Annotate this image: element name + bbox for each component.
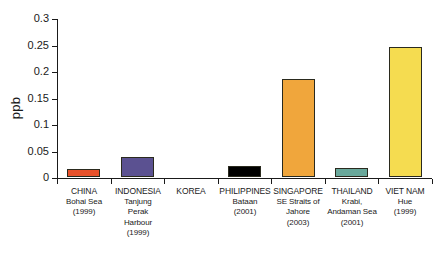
category-sublabel: (1999): [111, 228, 165, 239]
bar-chart-figure: ppb 00.050.10.150.20.250.3 CHINABohai Se…: [0, 0, 437, 255]
category-sublabel: (1999): [57, 207, 111, 218]
category-country-name: INDONESIA: [111, 186, 165, 197]
category-sublabel: Hue: [378, 197, 432, 208]
x-axis-category-label: PHILIPPINESBataan(2001): [218, 186, 272, 218]
x-axis-tick: [57, 179, 58, 184]
y-axis-tick: 0.25: [52, 46, 57, 47]
y-axis-tick-label: 0.3: [34, 12, 49, 25]
category-sublabel: Perak: [111, 207, 165, 218]
category-country-name: CHINA: [57, 186, 111, 197]
x-axis-category-label: SINGAPORESE Straits ofJahore(2003): [271, 186, 325, 228]
y-axis-tick-label: 0: [43, 171, 49, 184]
x-axis-category-label: THAILANDKrabi,Andaman Sea(2001): [325, 186, 379, 228]
category-sublabel: (2001): [325, 218, 379, 229]
y-axis-tick-label: 0.05: [28, 145, 49, 158]
bar: [121, 157, 154, 177]
category-sublabel: Bohai Sea: [57, 197, 111, 208]
category-country-name: SINGAPORE: [271, 186, 325, 197]
category-sublabel: Tanjung: [111, 197, 165, 208]
x-axis-line: [57, 178, 432, 179]
x-axis-tick: [271, 179, 272, 184]
category-sublabel: (2003): [271, 218, 325, 229]
x-axis-category-label: VIET NAMHue(1999): [378, 186, 432, 218]
bar: [228, 166, 261, 177]
category-sublabel: Jahore: [271, 207, 325, 218]
x-axis-tick: [325, 179, 326, 184]
x-axis-tick: [111, 179, 112, 184]
category-sublabel: (2001): [218, 207, 272, 218]
y-axis-tick-label: 0.15: [28, 92, 49, 105]
x-axis-category-label: KOREA: [164, 186, 218, 197]
category-country-name: KOREA: [164, 186, 218, 197]
y-axis-line: [57, 19, 58, 179]
category-sublabel: Krabi,: [325, 197, 379, 208]
y-axis-tick-label: 0.1: [34, 118, 49, 131]
category-sublabel: Bataan: [218, 197, 272, 208]
category-country-name: THAILAND: [325, 186, 379, 197]
category-sublabel: (1999): [378, 207, 432, 218]
category-sublabel: Andaman Sea: [325, 207, 379, 218]
y-axis-tick: 0.2: [52, 72, 57, 73]
x-axis-tick: [432, 179, 433, 184]
x-axis-tick: [378, 179, 379, 184]
x-axis-tick: [164, 179, 165, 184]
bar: [67, 169, 100, 177]
category-country-name: PHILIPPINES: [218, 186, 272, 197]
y-axis-tick: 0.3: [52, 19, 57, 20]
y-axis-title: ppb: [8, 78, 23, 138]
y-axis-tick: 0.15: [52, 99, 57, 100]
x-axis-category-label: CHINABohai Sea(1999): [57, 186, 111, 218]
category-sublabel: Harbour: [111, 218, 165, 229]
bar: [335, 168, 368, 177]
y-axis-tick: 0.05: [52, 152, 57, 153]
y-axis-tick: 0.1: [52, 125, 57, 126]
x-axis-category-label: INDONESIATanjungPerakHarbour(1999): [111, 186, 165, 239]
bar: [389, 47, 422, 177]
x-axis-category-labels: CHINABohai Sea(1999)INDONESIATanjungPera…: [57, 186, 432, 252]
y-axis-tick-label: 0.2: [34, 65, 49, 78]
bar: [282, 79, 315, 177]
category-sublabel: SE Straits of: [271, 197, 325, 208]
y-axis-tick-label: 0.25: [28, 39, 49, 52]
x-axis-tick: [218, 179, 219, 184]
category-country-name: VIET NAM: [378, 186, 432, 197]
plot-area: 00.050.10.150.20.250.3: [57, 19, 432, 178]
